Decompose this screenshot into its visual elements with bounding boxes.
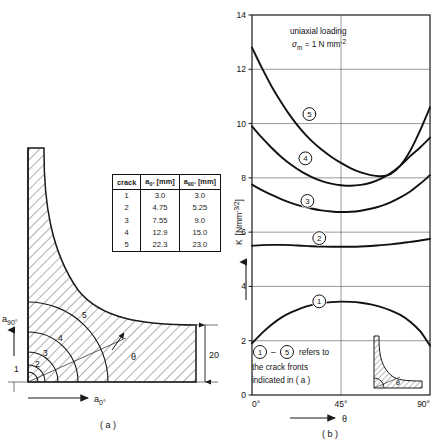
cell-a0: 3.0 xyxy=(141,190,179,203)
table-row: 5 22.3 23.0 xyxy=(113,239,221,252)
legend-text-line2: the crack fronts xyxy=(252,363,308,372)
chart-gridlines xyxy=(252,15,430,395)
table-body: 1 3.0 3.0 2 4.75 5.25 3 7.55 9.0 4 12.9 … xyxy=(113,190,221,251)
y-tick-label-10: 10 xyxy=(237,119,247,129)
crack-front-label-3: 3 xyxy=(43,348,48,358)
x-tick-label-0: 0° xyxy=(252,399,260,409)
x-tick-label-45: 45° xyxy=(335,399,348,409)
chart-series-markers: 12345 xyxy=(298,106,327,308)
table-header-crack: crack xyxy=(113,175,141,190)
table-header-a90: a90° [mm] xyxy=(179,175,220,190)
panel-a-caption: ( a ) xyxy=(100,420,116,430)
legend-text-line1: refers to xyxy=(299,348,329,357)
cell-crack: 2 xyxy=(113,202,141,214)
cell-crack: 5 xyxy=(113,239,141,252)
series-marker-label-5: 5 xyxy=(307,110,312,119)
figure-root: 1 2 3 4 5 θ a90° a0° 20 ( a ) crack a0° … xyxy=(0,0,441,442)
y-axis-label-group: K[Nmm-3/2] xyxy=(233,199,244,245)
crack-front-label-2: 2 xyxy=(35,359,40,369)
series-marker-label-2: 2 xyxy=(317,234,321,243)
legend-inset-theta-label: θ xyxy=(396,379,400,386)
legend-text-line3: indicated in ( a ) xyxy=(252,376,311,385)
crack-front-label-1: 1 xyxy=(14,364,19,374)
cell-a90: 23.0 xyxy=(179,239,220,252)
panel-b-chart: 024681012140°45°90° 12345 uniaxial loadi… xyxy=(230,0,441,442)
y-tick-label-8: 8 xyxy=(241,173,246,183)
x-tick-label-90: 90° xyxy=(417,399,430,409)
table-header-a0: a0° [mm] xyxy=(141,175,179,190)
series-marker-label-4: 4 xyxy=(303,154,308,163)
crack-size-table: crack a0° [mm] a90° [mm] 1 3.0 3.0 2 4.7… xyxy=(112,174,221,252)
y-axis-label: K[Nmm-3/2] xyxy=(233,199,244,245)
cell-a0: 12.9 xyxy=(141,227,179,239)
cell-crack: 4 xyxy=(113,227,141,239)
dimension-label-20: 20 xyxy=(209,350,219,360)
y-tick-label-14: 14 xyxy=(237,10,247,20)
chart-annotation-line1: uniaxial loading xyxy=(290,27,347,36)
table-header-row: crack a0° [mm] a90° [mm] xyxy=(113,175,221,190)
cell-a90: 3.0 xyxy=(179,190,220,203)
cell-a90: 5.25 xyxy=(179,202,220,214)
chart-annotation-line2: σm = 1 N mm-2 xyxy=(292,38,347,52)
legend-bracket-inset: θ xyxy=(374,336,422,388)
y-tick-label-12: 12 xyxy=(237,64,247,74)
legend-circle-5-label: 5 xyxy=(285,348,289,357)
cell-a90: 15.0 xyxy=(179,227,220,239)
crack-front-label-5: 5 xyxy=(82,310,87,320)
panel-b-caption: ( b ) xyxy=(322,429,338,439)
legend-circle-1-label: 1 xyxy=(258,348,262,357)
series-marker-label-3: 3 xyxy=(305,197,309,206)
cell-a0: 7.55 xyxy=(141,215,179,227)
table-row: 1 3.0 3.0 xyxy=(113,190,221,203)
cell-crack: 3 xyxy=(113,215,141,227)
cell-a0: 4.75 xyxy=(141,202,179,214)
y-tick-label-0: 0 xyxy=(241,390,246,400)
cell-a90: 9.0 xyxy=(179,215,220,227)
y-tick-label-2: 2 xyxy=(241,336,246,346)
table-row: 4 12.9 15.0 xyxy=(113,227,221,239)
theta-label: θ xyxy=(131,352,136,362)
a90-axis-label: a90° xyxy=(2,314,18,326)
table-row: 2 4.75 5.25 xyxy=(113,202,221,214)
crack-front-label-4: 4 xyxy=(58,333,63,343)
cell-crack: 1 xyxy=(113,190,141,203)
table-row: 3 7.55 9.0 xyxy=(113,215,221,227)
a0-axis-label: a0° xyxy=(94,394,106,406)
chart-legend: 1 – 5 refers to the crack fronts indicat… xyxy=(252,336,422,388)
legend-dash: – xyxy=(271,347,276,357)
cell-a0: 22.3 xyxy=(141,239,179,252)
series-marker-label-1: 1 xyxy=(317,297,321,306)
x-axis-label: θ xyxy=(342,414,347,424)
